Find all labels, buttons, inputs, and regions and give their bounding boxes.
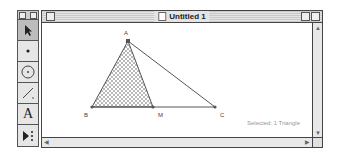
circle-icon <box>20 64 36 80</box>
label-B[interactable]: B <box>84 112 88 118</box>
custom-tool-icon <box>21 129 35 143</box>
document-icon <box>158 12 166 21</box>
point-A[interactable] <box>126 39 130 43</box>
zoom-box[interactable] <box>301 12 310 21</box>
point-B[interactable] <box>90 105 93 108</box>
selection-status: Selected: 1 Triangle <box>247 120 300 126</box>
scroll-down-arrow[interactable]: ▼ <box>315 129 321 137</box>
arrow-icon <box>22 23 34 37</box>
scroll-right-arrow[interactable]: ▶ <box>305 138 310 146</box>
custom-tool[interactable] <box>18 125 38 146</box>
title-group: Untitled 1 <box>154 11 209 22</box>
horizontal-scrollbar[interactable]: ◀ ▶ <box>42 137 312 147</box>
palette-title-bar[interactable] <box>18 11 38 20</box>
palette-close-box[interactable] <box>19 12 26 19</box>
sketch-window: Untitled 1 A B M C Selected: 1 Triangle … <box>41 10 323 148</box>
point-tool[interactable] <box>18 41 38 62</box>
selection-arrow-tool[interactable] <box>18 20 38 41</box>
palette-zoom-box[interactable] <box>30 12 37 19</box>
vertical-scrollbar[interactable]: ▲ ▼ <box>312 23 322 138</box>
point-M[interactable] <box>151 105 154 108</box>
window-title: Untitled 1 <box>169 11 205 22</box>
segment-icon <box>20 85 36 101</box>
sketch-canvas[interactable]: A B M C Selected: 1 Triangle <box>42 23 312 138</box>
resize-grip[interactable] <box>312 137 322 147</box>
point-C[interactable] <box>213 105 216 108</box>
text-tool-glyph: A <box>23 106 33 122</box>
label-M[interactable]: M <box>158 112 163 118</box>
text-tool[interactable]: A <box>18 104 38 125</box>
close-box[interactable] <box>46 12 55 21</box>
scroll-left-arrow[interactable]: ◀ <box>44 138 49 146</box>
point-icon <box>23 46 33 56</box>
triangle-ABM[interactable] <box>92 41 153 107</box>
label-C[interactable]: C <box>220 112 224 118</box>
tool-palette: A <box>17 10 39 147</box>
collapse-box[interactable] <box>311 12 320 21</box>
scroll-up-arrow[interactable]: ▲ <box>315 24 321 32</box>
straightedge-tool[interactable] <box>18 83 38 104</box>
compass-tool[interactable] <box>18 62 38 83</box>
label-A[interactable]: A <box>124 30 128 36</box>
window-title-bar[interactable]: Untitled 1 <box>42 11 322 23</box>
